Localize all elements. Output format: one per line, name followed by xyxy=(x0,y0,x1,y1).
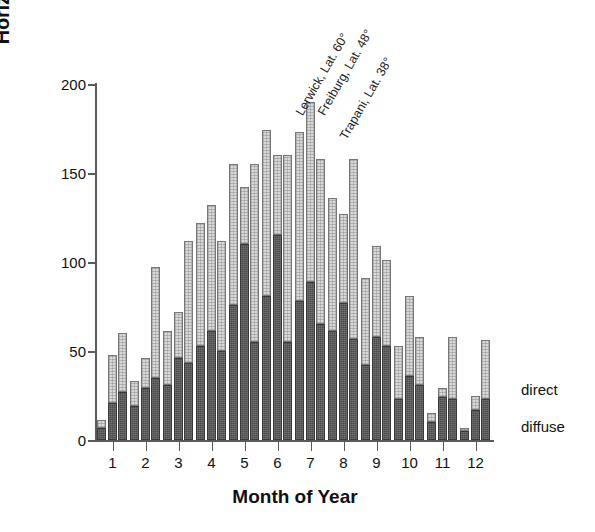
bar-segment-diffuse xyxy=(328,331,337,440)
y-tick-200 xyxy=(88,84,96,86)
bar-group-month-10 xyxy=(394,84,424,440)
bar-trapani-month-1 xyxy=(118,333,127,440)
bar-group-month-4 xyxy=(196,84,226,440)
x-tick-2 xyxy=(146,442,148,451)
bar-lerwick-month-7 xyxy=(295,132,304,440)
bar-segment-direct xyxy=(108,355,117,403)
x-tick-label-3: 3 xyxy=(174,454,182,471)
bar-segment-direct xyxy=(460,428,469,432)
bar-segment-direct xyxy=(262,130,271,296)
y-tick-label-200: 200 xyxy=(61,76,86,93)
legend-label-diffuse: diffuse xyxy=(521,418,565,435)
bar-segment-direct xyxy=(184,241,193,364)
bar-segment-diffuse xyxy=(283,342,292,440)
bar-segment-diffuse xyxy=(306,282,315,440)
bar-segment-direct xyxy=(339,214,348,303)
x-tick-label-4: 4 xyxy=(207,454,215,471)
bar-trapani-month-8 xyxy=(349,159,358,440)
bar-trapani-month-4 xyxy=(217,241,226,440)
bar-lerwick-month-9 xyxy=(361,278,370,440)
bar-segment-diffuse xyxy=(471,410,480,440)
bar-trapani-month-3 xyxy=(184,241,193,440)
bar-segment-direct xyxy=(229,164,238,305)
y-tick-label-100: 100 xyxy=(61,254,86,271)
bar-segment-diffuse xyxy=(460,431,469,440)
x-tick-label-12: 12 xyxy=(467,454,484,471)
x-tick-10 xyxy=(410,442,412,451)
bar-segment-diffuse xyxy=(163,385,172,440)
bar-segment-direct xyxy=(448,337,457,399)
bar-trapani-month-9 xyxy=(382,260,391,440)
bar-lerwick-month-5 xyxy=(229,164,238,440)
bar-trapani-month-10 xyxy=(415,337,424,440)
bar-group-month-6 xyxy=(262,84,292,440)
irradiation-bar-chart: Horizontal Irradiation Sum [kWh/m2] 0501… xyxy=(0,0,595,532)
x-tick-label-1: 1 xyxy=(108,454,116,471)
bar-freiburg-month-2 xyxy=(141,358,150,440)
bar-segment-direct xyxy=(349,159,358,339)
bar-segment-diffuse xyxy=(262,296,271,440)
bar-group-month-3 xyxy=(163,84,193,440)
x-tick-label-11: 11 xyxy=(435,454,451,471)
y-tick-label-50: 50 xyxy=(69,343,86,360)
x-tick-label-5: 5 xyxy=(240,454,248,471)
bar-segment-direct xyxy=(250,164,259,342)
x-axis-ticks: 123456789101112 xyxy=(96,442,494,476)
y-tick-50 xyxy=(88,351,96,353)
bar-segment-direct xyxy=(196,223,205,346)
bar-segment-diffuse xyxy=(448,399,457,440)
y-axis-title: Horizontal Irradiation Sum [kWh/m2] xyxy=(0,0,14,70)
bar-segment-diffuse xyxy=(382,346,391,440)
bar-segment-diffuse xyxy=(217,351,226,440)
x-tick-label-9: 9 xyxy=(372,454,380,471)
bar-segment-diffuse xyxy=(394,399,403,440)
x-tick-3 xyxy=(179,442,181,451)
bar-segment-diffuse xyxy=(229,305,238,440)
bar-freiburg-month-5 xyxy=(240,187,249,440)
bar-segment-direct xyxy=(316,159,325,325)
bar-segment-direct xyxy=(207,205,216,331)
bar-segment-diffuse xyxy=(207,331,216,440)
x-tick-label-7: 7 xyxy=(306,454,314,471)
bar-segment-diffuse xyxy=(174,358,183,440)
x-tick-label-2: 2 xyxy=(141,454,149,471)
bar-lerwick-month-8 xyxy=(328,198,337,440)
plot-area xyxy=(96,84,492,440)
bar-segment-diffuse xyxy=(405,376,414,440)
x-tick-9 xyxy=(377,442,379,451)
bar-trapani-month-7 xyxy=(316,159,325,440)
bar-trapani-month-11 xyxy=(448,337,457,440)
bar-group-month-11 xyxy=(427,84,457,440)
x-tick-5 xyxy=(245,442,247,451)
bar-segment-direct xyxy=(174,312,183,358)
bar-segment-direct xyxy=(217,241,226,351)
bar-segment-diffuse xyxy=(349,339,358,440)
bar-segment-direct xyxy=(283,155,292,342)
x-tick-4 xyxy=(212,442,214,451)
bar-segment-diffuse xyxy=(118,392,127,440)
bar-segment-direct xyxy=(438,388,447,397)
bar-segment-direct xyxy=(141,358,150,388)
x-tick-12 xyxy=(476,442,478,451)
bar-segment-direct xyxy=(405,296,414,376)
bar-segment-direct xyxy=(306,102,315,282)
y-tick-100 xyxy=(88,262,96,264)
bar-group-month-2 xyxy=(130,84,160,440)
bar-lerwick-month-3 xyxy=(163,331,172,440)
x-tick-7 xyxy=(311,442,313,451)
bar-group-month-7 xyxy=(295,84,325,440)
bar-freiburg-month-3 xyxy=(174,312,183,440)
bar-segment-diffuse xyxy=(196,346,205,440)
bar-segment-diffuse xyxy=(240,244,249,440)
y-axis-ticks: 050100150200 xyxy=(34,84,86,440)
bar-freiburg-month-6 xyxy=(273,155,282,440)
x-tick-label-6: 6 xyxy=(273,454,281,471)
bar-segment-direct xyxy=(97,420,106,427)
bar-lerwick-month-2 xyxy=(130,381,139,440)
bar-segment-diffuse xyxy=(141,388,150,440)
bar-freiburg-month-8 xyxy=(339,214,348,440)
bar-trapani-month-5 xyxy=(250,164,259,440)
bar-freiburg-month-11 xyxy=(438,388,447,440)
bar-segment-direct xyxy=(151,267,160,377)
bar-trapani-month-2 xyxy=(151,267,160,440)
